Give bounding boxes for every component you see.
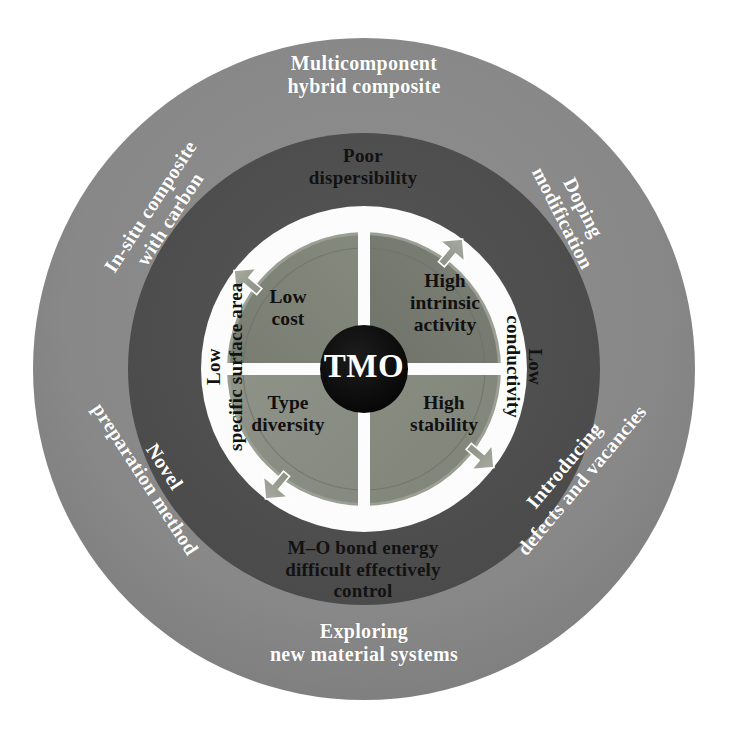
- core-circle: [320, 325, 408, 413]
- diagram-canvas: [0, 0, 729, 739]
- diagram-root: Multicomponent hybrid composite Explorin…: [0, 0, 729, 739]
